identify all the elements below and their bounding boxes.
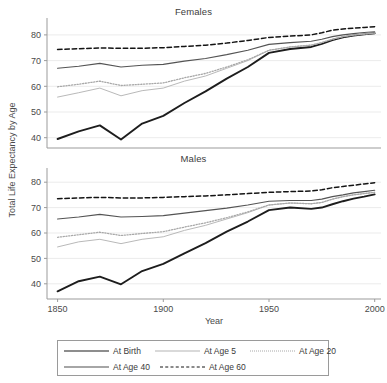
x-tick-label-2000: 2000 (365, 304, 385, 314)
legend-row-1: At BirthAt Age 5At Age 20 (58, 343, 328, 359)
legend-item-at-age-5[interactable]: At Age 5 (155, 346, 236, 356)
y-tick-label-70: 70 (31, 56, 41, 66)
x-axis-label: Year (205, 316, 223, 326)
legend-row-2: At Age 40At Age 60 (58, 359, 328, 375)
panel-females: 4050607080 (31, 18, 381, 148)
legend-swatch-at-birth-icon (64, 346, 109, 356)
plot-area: 405060708040506070801850190019502000Year… (0, 0, 387, 383)
y-tick-label-60: 60 (31, 228, 41, 238)
legend-item-at-birth[interactable]: At Birth (64, 346, 141, 356)
legend-item-at-age-40[interactable]: At Age 40 (64, 362, 150, 372)
y-tick-label-60: 60 (31, 82, 41, 92)
y-tick-label-50: 50 (31, 254, 41, 264)
x-tick-label-1850: 1850 (48, 304, 68, 314)
panel-males: 40506070801850190019502000 (31, 168, 385, 314)
panel-title-females: Females (0, 6, 387, 17)
y-tick-label-80: 80 (31, 30, 41, 40)
legend-label-at-age-20: At Age 20 (299, 346, 336, 356)
legend-item-at-age-20[interactable]: At Age 20 (250, 346, 336, 356)
panel-title-males: Males (0, 153, 387, 164)
legend-swatch-at-age-60-icon (160, 362, 205, 372)
y-tick-label-80: 80 (31, 177, 41, 187)
series-line-at-age-60 (58, 183, 375, 199)
series-line-at-age-40 (58, 190, 375, 219)
chart-legend: At BirthAt Age 5At Age 20 At Age 40At Ag… (57, 340, 329, 376)
legend-label-at-age-40: At Age 40 (113, 362, 150, 372)
legend-swatch-at-age-5-icon (155, 346, 200, 356)
legend-label-at-age-60: At Age 60 (209, 362, 246, 372)
legend-label-at-birth: At Birth (113, 346, 141, 356)
y-tick-label-40: 40 (31, 133, 41, 143)
x-tick-label-1900: 1900 (153, 304, 173, 314)
y-tick-label-50: 50 (31, 107, 41, 117)
chart-figure: Females Males 40506070804050607080185019… (0, 0, 387, 383)
legend-item-at-age-60[interactable]: At Age 60 (160, 362, 246, 372)
y-tick-label-70: 70 (31, 203, 41, 213)
series-line-at-age-40 (58, 32, 375, 69)
legend-swatch-at-age-40-icon (64, 362, 109, 372)
legend-swatch-at-age-20-icon (250, 346, 295, 356)
legend-label-at-age-5: At Age 5 (204, 346, 236, 356)
x-tick-label-1950: 1950 (259, 304, 279, 314)
y-tick-label-40: 40 (31, 279, 41, 289)
